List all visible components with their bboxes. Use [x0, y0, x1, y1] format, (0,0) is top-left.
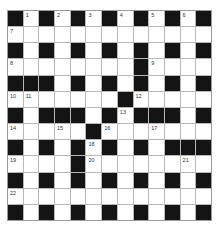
answer-cell[interactable] — [165, 124, 180, 139]
answer-cell[interactable] — [55, 156, 70, 171]
answer-cell[interactable] — [102, 59, 117, 74]
answer-cell[interactable] — [86, 76, 101, 91]
answer-cell[interactable] — [118, 59, 133, 74]
answer-cell[interactable]: 9 — [149, 59, 164, 74]
answer-cell[interactable] — [24, 189, 39, 204]
answer-cell[interactable]: 8 — [8, 59, 23, 74]
answer-cell[interactable] — [24, 108, 39, 123]
answer-cell[interactable] — [71, 124, 86, 139]
answer-cell[interactable] — [196, 27, 211, 42]
answer-cell[interactable]: 11 — [24, 92, 39, 107]
answer-cell[interactable] — [165, 156, 180, 171]
answer-cell[interactable] — [55, 92, 70, 107]
answer-cell[interactable]: 16 — [102, 124, 117, 139]
answer-cell[interactable] — [118, 124, 133, 139]
answer-cell[interactable] — [86, 59, 101, 74]
answer-cell[interactable] — [181, 92, 196, 107]
answer-cell[interactable] — [24, 59, 39, 74]
answer-cell[interactable] — [149, 156, 164, 171]
answer-cell[interactable]: 21 — [181, 156, 196, 171]
answer-cell[interactable] — [86, 108, 101, 123]
answer-cell[interactable] — [39, 59, 54, 74]
answer-cell[interactable] — [71, 27, 86, 42]
answer-cell[interactable] — [134, 124, 149, 139]
answer-cell[interactable]: 20 — [86, 156, 101, 171]
answer-cell[interactable]: 14 — [8, 124, 23, 139]
answer-cell[interactable] — [196, 156, 211, 171]
answer-cell[interactable] — [24, 156, 39, 171]
answer-cell[interactable] — [118, 156, 133, 171]
answer-cell[interactable] — [165, 59, 180, 74]
answer-cell[interactable] — [86, 92, 101, 107]
answer-cell[interactable]: 18 — [86, 140, 101, 155]
answer-cell[interactable]: 19 — [8, 156, 23, 171]
answer-cell[interactable]: 10 — [8, 92, 23, 107]
answer-cell[interactable] — [149, 92, 164, 107]
answer-cell[interactable] — [118, 189, 133, 204]
answer-cell[interactable] — [196, 124, 211, 139]
answer-cell[interactable] — [102, 156, 117, 171]
answer-cell[interactable] — [181, 205, 196, 220]
answer-cell[interactable] — [118, 173, 133, 188]
answer-cell[interactable]: 15 — [55, 124, 70, 139]
answer-cell[interactable] — [149, 205, 164, 220]
answer-cell[interactable] — [118, 76, 133, 91]
answer-cell[interactable] — [55, 140, 70, 155]
answer-cell[interactable]: 17 — [149, 124, 164, 139]
answer-cell[interactable] — [149, 140, 164, 155]
answer-cell[interactable] — [71, 189, 86, 204]
answer-cell[interactable]: 12 — [134, 92, 149, 107]
answer-cell[interactable] — [24, 140, 39, 155]
answer-cell[interactable]: 5 — [149, 11, 164, 26]
answer-cell[interactable] — [181, 43, 196, 58]
answer-cell[interactable] — [196, 92, 211, 107]
answer-cell[interactable]: 6 — [181, 11, 196, 26]
answer-cell[interactable] — [118, 140, 133, 155]
answer-cell[interactable] — [196, 59, 211, 74]
answer-cell[interactable] — [86, 189, 101, 204]
answer-cell[interactable] — [24, 173, 39, 188]
answer-cell[interactable]: 22 — [8, 189, 23, 204]
answer-cell[interactable]: 7 — [8, 27, 23, 42]
answer-cell[interactable] — [181, 108, 196, 123]
answer-cell[interactable] — [55, 27, 70, 42]
answer-cell[interactable] — [86, 173, 101, 188]
answer-cell[interactable] — [102, 92, 117, 107]
answer-cell[interactable] — [39, 92, 54, 107]
answer-cell[interactable] — [181, 173, 196, 188]
answer-cell[interactable] — [71, 92, 86, 107]
answer-cell[interactable] — [149, 189, 164, 204]
answer-cell[interactable] — [118, 27, 133, 42]
answer-cell[interactable] — [181, 76, 196, 91]
answer-cell[interactable] — [181, 27, 196, 42]
answer-cell[interactable] — [196, 189, 211, 204]
answer-cell[interactable] — [181, 189, 196, 204]
answer-cell[interactable] — [55, 59, 70, 74]
answer-cell[interactable] — [134, 189, 149, 204]
answer-cell[interactable] — [39, 27, 54, 42]
answer-cell[interactable] — [55, 43, 70, 58]
answer-cell[interactable]: 13 — [118, 108, 133, 123]
answer-cell[interactable]: 4 — [118, 11, 133, 26]
answer-cell[interactable] — [24, 27, 39, 42]
answer-cell[interactable] — [149, 173, 164, 188]
answer-cell[interactable] — [134, 27, 149, 42]
answer-cell[interactable] — [102, 189, 117, 204]
answer-cell[interactable] — [118, 205, 133, 220]
answer-cell[interactable] — [55, 173, 70, 188]
answer-cell[interactable] — [39, 124, 54, 139]
answer-cell[interactable] — [165, 92, 180, 107]
answer-cell[interactable] — [118, 43, 133, 58]
answer-cell[interactable] — [55, 76, 70, 91]
answer-cell[interactable] — [55, 189, 70, 204]
answer-cell[interactable] — [39, 156, 54, 171]
answer-cell[interactable] — [24, 124, 39, 139]
answer-cell[interactable] — [102, 27, 117, 42]
answer-cell[interactable]: 3 — [86, 11, 101, 26]
answer-cell[interactable] — [165, 189, 180, 204]
answer-cell[interactable] — [181, 124, 196, 139]
answer-cell[interactable] — [55, 205, 70, 220]
answer-cell[interactable] — [181, 59, 196, 74]
answer-cell[interactable] — [24, 43, 39, 58]
answer-cell[interactable] — [71, 59, 86, 74]
